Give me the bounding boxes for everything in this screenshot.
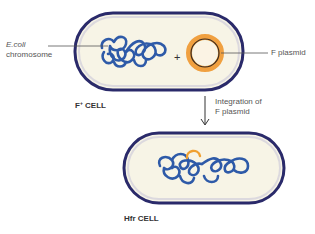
down-arrow-icon xyxy=(201,96,209,125)
hfr-cell-caption: Hfr CELL xyxy=(124,214,159,223)
f-plus-cell-caption: F+ CELL xyxy=(75,100,106,110)
chromosome-label: E.coli chromosome xyxy=(6,40,52,60)
chromosome-label-species: E.coli xyxy=(6,40,26,49)
diagram-canvas xyxy=(0,0,315,234)
integration-label: Integration of F plasmid xyxy=(215,97,262,117)
integration-label-line2: F plasmid xyxy=(215,107,250,116)
f-plus-cell xyxy=(75,13,243,90)
chromosome-label-word: chromosome xyxy=(6,50,52,59)
plus-sign: + xyxy=(174,51,180,63)
f-plus-caption-rest: CELL xyxy=(83,101,106,110)
plasmid-label: F plasmid xyxy=(271,48,306,58)
integration-label-line1: Integration of xyxy=(215,97,262,106)
hfr-cell xyxy=(124,133,284,203)
